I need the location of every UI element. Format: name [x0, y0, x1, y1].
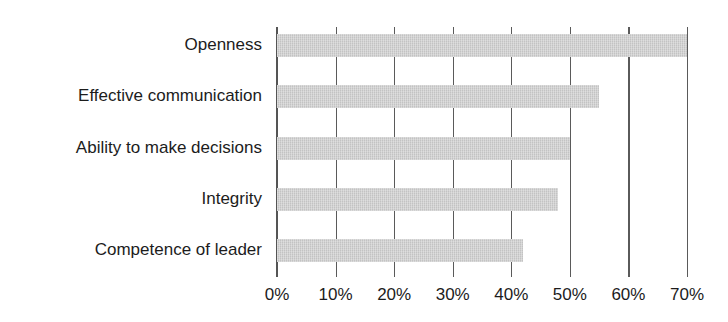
- bar: [277, 34, 687, 57]
- category-label: Effective communication: [0, 86, 270, 106]
- category-label: Competence of leader: [0, 240, 270, 260]
- category-label: Openness: [0, 35, 270, 55]
- category-label: Ability to make decisions: [0, 138, 270, 158]
- category-label: Integrity: [0, 189, 270, 209]
- bar: [277, 188, 558, 211]
- tick-label: 20%: [377, 284, 411, 306]
- tick-label: 0%: [265, 284, 290, 306]
- tick-label: 70%: [670, 284, 704, 306]
- gridline: [570, 27, 571, 277]
- tick-label: 60%: [611, 284, 645, 306]
- plot-area: [277, 27, 687, 277]
- gridline: [628, 27, 629, 277]
- tick-label: 50%: [553, 284, 587, 306]
- bar: [277, 239, 523, 262]
- bar: [277, 85, 599, 108]
- category-axis-labels: OpennessEffective communicationAbility t…: [0, 27, 270, 277]
- tick-label: 30%: [436, 284, 470, 306]
- value-axis-tick-labels: 0%10%20%30%40%50%60%70%: [277, 284, 697, 310]
- tick-label: 40%: [494, 284, 528, 306]
- bar: [277, 137, 570, 160]
- tick-label: 10%: [319, 284, 353, 306]
- horizontal-bar-chart: OpennessEffective communicationAbility t…: [0, 0, 728, 322]
- gridline: [687, 27, 688, 277]
